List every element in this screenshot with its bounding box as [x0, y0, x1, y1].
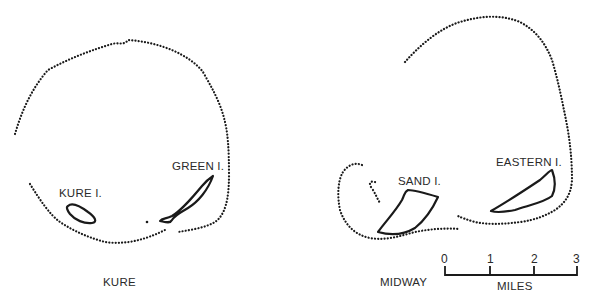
kure-reef-outline [15, 40, 229, 232]
kure-islet [146, 221, 149, 224]
scale-tick-3: 3 [573, 252, 580, 266]
eastern-island-outline [491, 170, 555, 212]
kure-atoll-map: KURE I. GREEN I. KURE [15, 40, 229, 288]
midway-reef-fragment [370, 182, 380, 203]
scale-tick-0: 0 [441, 252, 448, 266]
scale-unit-label: MILES [497, 280, 533, 292]
midway-map-title: MIDWAY [380, 276, 427, 288]
midway-atoll-map: SAND I. EASTERN I. MIDWAY [338, 17, 572, 288]
atoll-maps: KURE I. GREEN I. KURE SAND I. EASTERN I.… [0, 0, 600, 299]
scale-bar: 0 1 2 3 MILES [441, 252, 580, 292]
kure-island-label: KURE I. [59, 187, 102, 199]
scale-tick-1: 1 [487, 252, 494, 266]
kure-map-title: KURE [103, 276, 136, 288]
green-island-outline [160, 176, 213, 222]
kure-island-outline [67, 204, 95, 223]
sand-island-label: SAND I. [398, 175, 441, 187]
eastern-island-label: EASTERN I. [496, 156, 562, 168]
green-island-label: GREEN I. [172, 160, 224, 172]
sand-island-outline [378, 190, 438, 234]
scale-bar-line [445, 266, 577, 275]
scale-tick-2: 2 [531, 252, 538, 266]
midway-reef-outline [405, 17, 572, 224]
